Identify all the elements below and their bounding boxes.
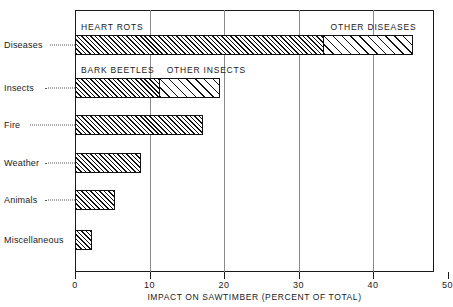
bar-fire: [75, 115, 203, 135]
bar-segment: [159, 78, 219, 98]
segment-label: OTHER DISEASES: [331, 22, 417, 32]
category-label-insects: Insects: [4, 83, 34, 93]
x-axis-tick-label: 30: [293, 280, 304, 290]
bar-miscellaneous: [75, 230, 92, 250]
x-axis-tick-label: 10: [144, 280, 155, 290]
bar-diseases: [75, 35, 414, 55]
bar-insects: [75, 78, 221, 98]
x-axis-tick: [373, 272, 374, 279]
label-leader-line: [45, 163, 75, 164]
bar-segment: [323, 35, 412, 55]
x-axis-tick-label: 40: [368, 280, 379, 290]
label-leader-line: [50, 45, 75, 46]
x-axis-tick: [150, 272, 151, 279]
x-axis-tick-label: 50: [442, 280, 453, 290]
x-axis-tick: [448, 272, 449, 279]
category-label-diseases: Diseases: [4, 40, 43, 50]
category-label-weather: Weather: [4, 158, 39, 168]
bar-segment: [75, 190, 115, 210]
segment-label: HEART ROTS: [81, 22, 143, 32]
x-axis-tick-label: 20: [219, 280, 230, 290]
x-axis-tick: [299, 272, 300, 279]
category-label-fire: Fire: [4, 120, 20, 130]
category-label-miscellaneous: Miscellaneous: [4, 235, 64, 245]
x-axis-tick: [75, 272, 76, 279]
bar-segment: [75, 78, 161, 98]
bar-segment: [75, 35, 325, 55]
category-label-animals: Animals: [4, 195, 37, 205]
bar-animals: [75, 190, 115, 210]
x-axis-tick-label: 0: [72, 280, 77, 290]
label-leader-line: [30, 125, 75, 126]
label-leader-line: [45, 200, 75, 201]
label-leader-line: [45, 88, 75, 89]
x-axis-tick: [224, 272, 225, 279]
bar-segment: [75, 153, 141, 173]
bar-segment: [75, 230, 92, 250]
bar-segment: [75, 115, 203, 135]
segment-label: BARK BEETLES: [81, 65, 154, 75]
x-axis-title: IMPACT ON SAWTIMBER (PERCENT OF TOTAL): [75, 292, 434, 302]
bar-weather: [75, 153, 141, 173]
segment-label: OTHER INSECTS: [167, 65, 246, 75]
